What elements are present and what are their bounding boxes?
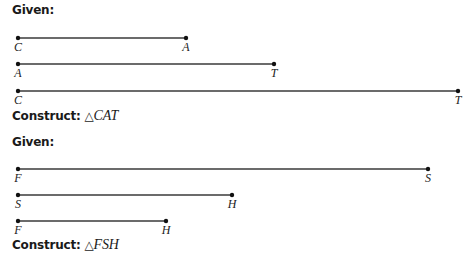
point-label-start: F	[13, 171, 22, 185]
segment-AT: AT	[13, 62, 278, 80]
point-label-end: T	[455, 93, 463, 107]
point-label-end: H	[227, 197, 238, 211]
point-label-end: S	[425, 171, 431, 185]
point-label-start: S	[15, 197, 21, 211]
point-label-start: C	[14, 93, 23, 107]
segment-CA: CA	[14, 36, 190, 54]
segment-FS: FS	[13, 167, 431, 185]
point-label-start: F	[13, 223, 22, 237]
point-label-end: H	[161, 223, 172, 237]
segment-FH: FH	[13, 219, 171, 237]
point-label-end: A	[181, 40, 190, 54]
segment-SH: SH	[15, 193, 238, 211]
given-segments-figure: CAATCTFSSHFH	[0, 0, 465, 261]
point-label-start: C	[14, 40, 23, 54]
point-label-start: A	[13, 66, 22, 80]
segment-CT: CT	[14, 89, 463, 107]
point-label-end: T	[271, 66, 279, 80]
